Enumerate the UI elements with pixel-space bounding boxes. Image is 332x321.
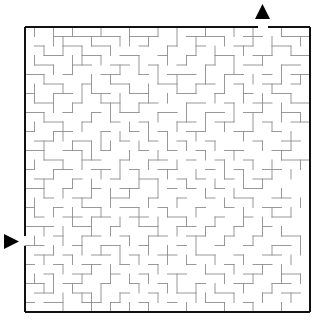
- exit-arrow-icon: [255, 4, 270, 19]
- entrance-arrow-icon: [4, 234, 19, 249]
- maze-interior-walls: [25, 27, 310, 312]
- maze-canvas: [0, 0, 332, 321]
- maze-figure: [0, 0, 332, 321]
